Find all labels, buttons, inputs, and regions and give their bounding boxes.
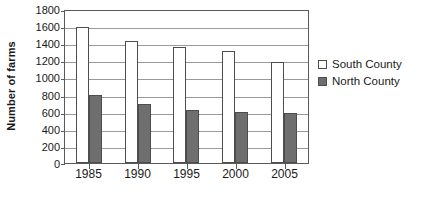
bar-south-county-2000: [222, 51, 235, 163]
y-axis-tick-label: 1400: [36, 38, 60, 50]
y-axis-tick-label: 400: [42, 124, 60, 136]
x-axis-tick-label: 2005: [271, 167, 298, 187]
y-axis-tick-label: 1000: [36, 72, 60, 84]
y-axis-tick-labels: 020040060080010001200140016001800: [22, 10, 64, 164]
legend-item-north-county: North County: [318, 75, 418, 87]
x-axis-tick-label: 2000: [222, 167, 249, 187]
y-axis-title: Number of farms: [5, 41, 17, 131]
legend-item-south-county: South County: [318, 58, 418, 70]
bar-south-county-1985: [76, 27, 89, 163]
bar-chart-figure: Number of farms 020040060080010001200140…: [0, 0, 422, 203]
y-axis-tick-label: 200: [42, 141, 60, 153]
legend-swatch-north-county: [318, 77, 327, 86]
x-axis-tickmark: [187, 164, 188, 169]
y-axis-tick-label: 1800: [36, 4, 60, 16]
bar-group: [76, 11, 102, 163]
y-axis-tick-label: 1200: [36, 55, 60, 67]
chart-legend: South County North County: [318, 58, 418, 92]
x-axis-tickmark: [285, 164, 286, 169]
bar-north-county-2005: [284, 113, 297, 163]
bar-south-county-2005: [271, 62, 284, 163]
y-axis-tick-label: 0: [54, 158, 60, 170]
bar-north-county-1990: [138, 104, 151, 163]
bar-south-county-1990: [125, 41, 138, 163]
x-axis-tick-label: 1995: [173, 167, 200, 187]
bar-north-county-2000: [235, 112, 248, 163]
legend-swatch-south-county: [318, 60, 327, 69]
x-axis-tickmark: [89, 164, 90, 169]
bar-north-county-1985: [89, 95, 102, 163]
bar-group: [125, 11, 151, 163]
plot-area: [64, 10, 309, 164]
bar-group: [271, 11, 297, 163]
bar-groups: [65, 11, 308, 163]
bar-group: [222, 11, 248, 163]
bar-group: [173, 11, 199, 163]
y-axis-tick-label: 800: [42, 90, 60, 102]
bar-south-county-1995: [173, 47, 186, 163]
x-axis-tickmark: [138, 164, 139, 169]
y-axis-tickmark: [61, 164, 65, 165]
x-axis-tick-label: 1985: [75, 167, 102, 187]
y-axis-title-container: Number of farms: [0, 0, 22, 172]
bar-north-county-1995: [186, 110, 199, 163]
y-axis-tick-label: 1600: [36, 21, 60, 33]
x-axis-tick-labels: 19851990199520002005: [64, 167, 309, 187]
legend-label-south-county: South County: [332, 58, 402, 70]
legend-label-north-county: North County: [332, 75, 400, 87]
y-axis-tick-label: 600: [42, 107, 60, 119]
x-axis-tickmark: [236, 164, 237, 169]
x-axis-tick-label: 1990: [124, 167, 151, 187]
